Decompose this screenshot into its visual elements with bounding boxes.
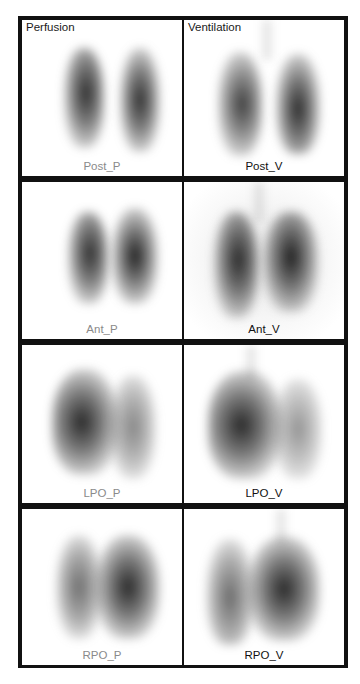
view-label: Post_V [184,160,344,172]
lung-scan-image [184,509,344,665]
panel-ant-ventilation: Ant_V [184,182,344,339]
column-title-perfusion: Perfusion [26,21,75,33]
panel-post-ventilation: Ventilation Post_V [184,20,344,176]
lung-scan-image [22,345,182,503]
lung-scan-image [184,20,344,176]
panel-lpo-ventilation: LPO_V [184,345,344,503]
column-title-ventilation: Ventilation [188,21,241,33]
panel-post-perfusion: Perfusion Post_P [22,20,182,176]
scan-grid: Perfusion Post_P Ventilation Post_V Ant_… [22,20,344,664]
view-label: RPO_V [184,649,344,661]
view-label: Post_P [22,160,182,172]
panel-lpo-perfusion: LPO_P [22,345,182,503]
view-label: Ant_P [22,323,182,335]
view-label: Ant_V [184,323,344,335]
lung-scan-image [22,20,182,176]
view-label: LPO_P [22,487,182,499]
lung-scan-image [22,182,182,339]
scan-grid-frame: Perfusion Post_P Ventilation Post_V Ant_… [18,16,348,668]
view-label: RPO_P [22,649,182,661]
panel-rpo-perfusion: RPO_P [22,509,182,665]
lung-scan-image [22,509,182,665]
lung-scan-image [184,345,344,503]
lung-scan-image [184,182,344,339]
panel-rpo-ventilation: RPO_V [184,509,344,665]
panel-ant-perfusion: Ant_P [22,182,182,339]
view-label: LPO_V [184,487,344,499]
